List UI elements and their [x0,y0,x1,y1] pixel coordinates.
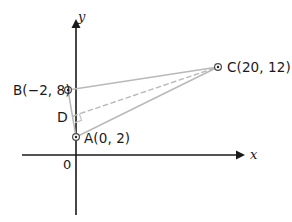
coordinate-figure: y x 0 A(0, 2) B(−2, 8) C(20, 12) D [0,0,292,222]
point-label-b: B(−2, 8) [13,84,71,98]
point-label-d: D [57,110,68,124]
x-axis-arrowhead [236,151,245,160]
point-marker-a [73,134,80,141]
triangle-abc [68,67,218,137]
y-axis-label: y [78,10,85,23]
segment-dc-dashed [73,67,218,116]
x-axis-label: x [250,148,257,161]
point-label-a: A(0, 2) [84,132,130,146]
figure-canvas [0,0,292,222]
point-label-c: C(20, 12) [227,61,291,75]
axes-group [22,19,245,215]
point-marker-c [215,64,222,71]
point-markers [65,64,222,141]
origin-label: 0 [63,158,71,171]
